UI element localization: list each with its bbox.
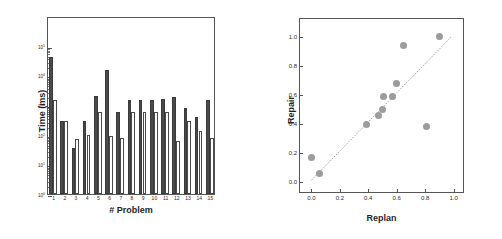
scatter-x-tick-label-3: 0.6 [393,195,401,201]
bar-x-tick-label-11: 11 [163,196,168,201]
scatter-y-tick-3 [300,95,303,96]
scatter-x-tick-3 [397,189,398,192]
bar-y-minor-tick [48,52,50,53]
scatter-x-axis-label: Replan [299,213,464,223]
scatter-plot-frame: 0.00.20.40.60.81.0 0.00.20.40.60.81.0 [299,18,464,193]
bar-chart-x-axis-label: # Problem [47,205,215,215]
bar-light-bars-problem-5 [98,112,102,194]
bar-light-bars-problem-15 [210,138,214,194]
scatter-point-9 [423,123,430,130]
bar-light-bars-problem-6 [109,136,113,194]
bar-x-tick-label-4: 4 [86,196,89,201]
bar-light-bars-problem-9 [143,112,147,194]
scatter-point-0 [308,154,315,161]
bar-y-minor-tick [48,49,50,50]
scatter-point-10 [436,33,443,40]
scatter-x-tick-label-0: 0.0 [307,195,315,201]
scatter-x-tick-2 [368,189,369,192]
scatter-x-tick-1 [340,189,341,192]
scatter-point-5 [380,93,387,100]
bar-light-bars-problem-14 [199,131,203,194]
scatter-plot-panel: 0.00.20.40.60.81.0 0.00.20.40.60.81.0 Re… [251,0,502,239]
bar-x-tick-label-7: 7 [119,196,122,201]
bar-y-minor-tick [48,54,50,55]
scatter-point-2 [363,121,370,128]
bar-x-tick-label-13: 13 [185,196,191,201]
bar-chart-plot-area [48,18,214,194]
scatter-x-tick-5 [454,189,455,192]
bar-x-tick-label-2: 2 [63,196,66,201]
bar-x-tick-label-9: 9 [142,196,145,201]
scatter-point-8 [400,42,407,49]
bar-light-bars-problem-4 [87,135,91,194]
scatter-x-tick-label-4: 0.8 [421,195,429,201]
bar-light-bars-problem-13 [187,121,191,194]
scatter-y-tick-0 [300,182,303,183]
scatter-y-tick-4 [300,66,303,67]
bar-x-tick-label-14: 14 [196,196,202,201]
scatter-x-tick-label-5: 1.0 [449,195,457,201]
scatter-y-tick-1 [300,153,303,154]
bar-light-bars-problem-1 [53,100,57,194]
bar-light-bars-problem-2 [64,121,68,194]
bar-light-bars-problem-10 [154,112,158,194]
bar-light-bars-problem-11 [165,112,169,194]
scatter-y-tick-5 [300,37,303,38]
scatter-x-tick-0 [311,189,312,192]
bar-x-tick-label-15: 15 [208,196,214,201]
scatter-x-tick-4 [425,189,426,192]
scatter-point-6 [389,93,396,100]
scatter-plot-area [300,19,463,192]
scatter-point-7 [393,80,400,87]
bar-x-tick-label-8: 8 [131,196,134,201]
bar-light-bars-problem-12 [176,141,180,194]
scatter-point-4 [379,106,386,113]
scatter-y-tick-2 [300,124,303,125]
bar-x-tick-label-10: 10 [152,196,158,201]
bar-light-bars-problem-8 [131,112,135,194]
bar-x-tick-label-5: 5 [97,196,100,201]
bar-y-tick-5 [48,48,52,49]
scatter-y-axis-label: Repair [286,23,296,198]
bar-x-tick-label-3: 3 [75,196,78,201]
bar-y-minor-tick [48,51,50,52]
scatter-point-1 [316,170,323,177]
bar-x-tick-label-6: 6 [108,196,111,201]
scatter-x-tick-label-1: 0.2 [336,195,344,201]
bar-chart-plot-frame: 100101102103104105 123456789101112131415 [47,17,215,195]
bar-x-tick-label-12: 12 [174,196,180,201]
bar-x-tick-label-1: 1 [52,196,55,201]
scatter-x-tick-label-2: 0.4 [364,195,372,201]
bar-chart-panel: 100101102103104105 123456789101112131415… [0,0,251,239]
figure-container: 100101102103104105 123456789101112131415… [0,0,502,239]
bar-light-bars-problem-3 [75,139,79,194]
bar-light-bars-problem-7 [120,138,124,194]
bar-chart-y-axis-label: Time (ms) [37,22,47,200]
